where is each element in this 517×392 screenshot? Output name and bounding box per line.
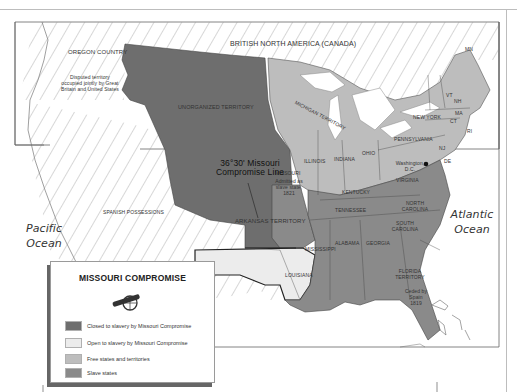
legend-item-closed: Closed to slavery by Missouri Compromise [65,321,191,331]
label-state-ma: MA [455,110,463,116]
label-spanish-possessions: SPANISH POSSESSIONS [103,209,164,215]
label-state-ri: RI [467,128,472,134]
label-atlantic-ocean: Atlantic Ocean [450,207,494,237]
swatch-open [65,338,82,348]
label-state-mississippi: MISSISSIPPI [305,246,336,252]
legend-item-slave: Slave states [65,368,117,378]
label-oregon-note: Disputed territory occupied jointly by G… [60,74,120,92]
cannon-icon [110,288,148,312]
label-compromise-line: 36°30' Missouri Compromise Line [205,159,295,177]
legend-label-closed: Closed to slavery by Missouri Compromise [87,323,191,329]
label-state-alabama: ALABAMA [335,240,359,246]
legend-title: MISSOURI COMPROMISE [51,273,214,283]
legend-item-open: Open to slavery by Missouri Compromise [65,338,188,348]
swatch-closed [65,321,82,331]
label-state-ohio: OHIO [362,150,375,156]
label-arkansas-territory: ARKANSAS TERRITORY [235,218,306,225]
legend-label-slave: Slave states [87,370,117,376]
label-state-illinois: ILLINOIS [304,158,325,164]
label-state-georgia: GEORGIA [366,240,390,246]
label-state-tennessee: TENNESSEE [335,207,366,213]
label-state-de: DE [444,158,451,164]
label-state-north-carolina: NORTH CAROLINA [400,200,430,212]
label-state-south-carolina: SOUTH CAROLINA [390,220,420,232]
label-state-nj: NJ [439,145,445,151]
legend-label-free: Free states and territories [87,356,150,362]
legend-item-free: Free states and territories [65,354,150,364]
swatch-slave [65,368,82,378]
label-state-pennsylvania: PENNSYLVANIA [394,136,433,142]
label-oregon-country: OREGON COUNTRY [68,49,127,56]
label-unorganized-territory: UNORGANIZED TERRITORY [178,104,254,111]
label-florida-note: Ceded by Spain 1819 [404,288,428,306]
label-pacific-ocean: Pacific Ocean [24,221,64,251]
label-state-kentucky: KENTUCKY [342,189,370,195]
label-state-vt: VT [446,92,453,98]
label-florida-territory: FLORIDA TERRITORY [390,268,430,280]
label-state-ct: CT [450,118,457,124]
label-state-new-york: NEW YORK [413,114,441,120]
label-missouri-note: Admitted as slave state, 1821 [273,178,305,196]
label-state-mn: MN [465,46,473,52]
label-state-indiana: INDIANA [334,156,355,162]
label-state-virginia: VIRGINIA [396,177,419,183]
swatch-free [65,354,82,364]
label-state-nh: NH [454,98,461,104]
legend-label-open: Open to slavery by Missouri Compromise [87,340,188,346]
label-state-louisiana: LOUISIANA [285,272,313,278]
label-washington-dc: Washington, D.C. [394,160,426,172]
legend-box: MISSOURI COMPROMISE Closed to slavery by… [50,261,215,383]
label-canada: BRITISH NORTH AMERICA (CANADA) [230,40,356,47]
